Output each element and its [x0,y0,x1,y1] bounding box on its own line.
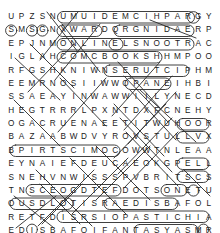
grid-cell[interactable]: T [120,117,130,130]
grid-cell[interactable]: N [141,37,151,50]
grid-cell[interactable]: Y [203,104,214,117]
grid-cell[interactable]: E [183,157,193,170]
grid-cell[interactable]: C [89,50,99,63]
grid-cell[interactable]: E [100,117,110,130]
grid-cell[interactable]: I [79,77,89,90]
grid-cell[interactable]: K [131,50,141,63]
grid-cell[interactable]: I [58,211,68,224]
grid-cell[interactable]: I [172,77,182,90]
grid-cell[interactable]: G [131,23,141,36]
grid-cell[interactable]: E [110,10,120,23]
grid-cell[interactable]: S [68,77,78,90]
grid-cell[interactable]: F [183,197,193,210]
grid-cell[interactable]: B [162,197,172,210]
grid-cell[interactable]: P [172,157,182,170]
grid-cell[interactable]: D [37,197,47,210]
grid-cell[interactable]: O [193,117,203,130]
grid-cell[interactable]: T [120,104,130,117]
grid-cell[interactable]: I [6,50,16,63]
grid-cell[interactable]: R [110,130,120,143]
grid-cell[interactable]: A [172,10,182,23]
grid-cell[interactable]: E [100,184,110,197]
grid-cell[interactable]: L [79,37,89,50]
grid-cell[interactable]: I [141,197,151,210]
grid-cell[interactable]: S [131,37,141,50]
grid-cell[interactable]: S [141,130,151,143]
grid-cell[interactable]: P [162,10,172,23]
grid-cell[interactable]: R [48,104,58,117]
grid-cell[interactable]: I [79,144,89,157]
grid-cell[interactable]: R [183,37,193,50]
grid-cell[interactable]: L [151,90,161,103]
grid-cell[interactable]: E [16,211,26,224]
grid-cell[interactable]: N [16,171,26,184]
grid-cell[interactable]: A [48,90,58,103]
grid-cell[interactable]: H [162,50,172,63]
grid-cell[interactable]: D [131,104,141,117]
grid-cell[interactable]: V [89,130,99,143]
grid-cell[interactable]: L [79,104,89,117]
grid-cell[interactable]: A [203,144,214,157]
grid-cell[interactable]: W [89,90,99,103]
grid-cell[interactable]: G [27,64,37,77]
grid-cell[interactable]: U [203,184,214,197]
grid-cell[interactable]: A [27,90,37,103]
grid-cell[interactable]: S [110,64,120,77]
grid-cell[interactable]: S [16,90,26,103]
grid-cell[interactable]: T [151,144,161,157]
grid-cell[interactable]: M [203,64,214,77]
grid-cell[interactable]: I [79,64,89,77]
grid-cell[interactable]: A [172,197,182,210]
grid-cell[interactable]: N [79,90,89,103]
grid-cell[interactable]: L [203,157,214,170]
grid-cell[interactable]: E [16,104,26,117]
grid-cell[interactable]: L [120,37,130,50]
grid-cell[interactable]: E [110,117,120,130]
grid-cell[interactable]: D [79,184,89,197]
grid-cell[interactable]: H [6,104,16,117]
grid-cell[interactable]: N [48,23,58,36]
grid-cell[interactable]: R [89,23,99,36]
grid-cell[interactable]: R [6,64,16,77]
grid-cell[interactable]: B [193,77,203,90]
grid-cell[interactable]: R [193,23,203,36]
grid-cell[interactable]: S [37,64,47,77]
grid-cell[interactable]: R [100,197,110,210]
grid-cell[interactable]: T [172,171,182,184]
grid-cell[interactable]: E [6,37,16,50]
grid-cell[interactable]: C [110,144,120,157]
grid-cell[interactable]: N [48,77,58,90]
grid-cell[interactable]: S [27,23,37,36]
grid-cell[interactable]: N [172,104,182,117]
grid-cell[interactable]: M [172,50,182,63]
grid-cell[interactable]: O [151,37,161,50]
grid-cell[interactable]: F [37,211,47,224]
grid-cell[interactable]: H [183,211,193,224]
grid-cell[interactable]: O [141,157,151,170]
grid-cell[interactable]: I [203,77,214,90]
grid-cell[interactable]: A [48,130,58,143]
grid-cell[interactable]: D [131,197,141,210]
grid-cell[interactable]: A [100,90,110,103]
grid-cell[interactable]: E [162,77,172,90]
grid-cell[interactable]: M [120,10,130,23]
grid-cell[interactable]: T [131,224,141,233]
grid-cell[interactable]: R [183,10,193,23]
grid-cell[interactable]: W [151,117,161,130]
grid-cell[interactable]: T [193,184,203,197]
grid-cell[interactable]: P [131,77,141,90]
grid-cell[interactable]: D [79,157,89,170]
grid-cell[interactable]: F [151,104,161,117]
grid-cell[interactable]: M [193,224,203,233]
grid-cell[interactable]: E [110,37,120,50]
grid-cell[interactable]: B [141,171,151,184]
grid-cell[interactable]: C [37,117,47,130]
grid-cell[interactable]: E [89,157,99,170]
grid-cell[interactable]: S [89,197,99,210]
grid-cell[interactable]: L [172,130,182,143]
grid-cell[interactable]: R [68,104,78,117]
grid-cell[interactable]: U [162,130,172,143]
grid-cell[interactable]: W [110,90,120,103]
grid-cell[interactable]: R [37,144,47,157]
grid-cell[interactable]: W [89,64,99,77]
